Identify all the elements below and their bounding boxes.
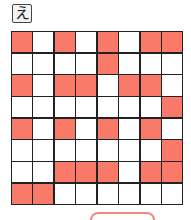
puzzle-label: え	[12, 4, 32, 23]
grid-cell[interactable]	[162, 162, 182, 182]
grid-cell[interactable]	[141, 184, 161, 204]
grid-cell[interactable]	[12, 162, 32, 182]
grid-cell[interactable]	[119, 162, 139, 182]
grid-cell[interactable]	[162, 184, 182, 204]
grid-cell[interactable]	[76, 54, 96, 74]
grid-cell[interactable]	[162, 75, 182, 95]
grid-cell[interactable]	[98, 32, 118, 52]
grid-cell[interactable]	[98, 140, 118, 160]
grid-cell[interactable]	[162, 54, 182, 74]
grid-cell[interactable]	[119, 184, 139, 204]
grid-cell[interactable]	[33, 54, 53, 74]
grid-cell[interactable]	[55, 184, 75, 204]
grid-cell[interactable]	[55, 140, 75, 160]
grid-cell[interactable]	[12, 184, 32, 204]
grid-cell[interactable]	[33, 75, 53, 95]
grid-cell[interactable]	[98, 54, 118, 74]
grid-cell[interactable]	[33, 140, 53, 160]
grid-cell[interactable]	[55, 119, 75, 139]
grid-cell[interactable]	[119, 75, 139, 95]
grid-cell[interactable]	[98, 162, 118, 182]
grid-cell[interactable]	[76, 75, 96, 95]
grid-cell[interactable]	[55, 75, 75, 95]
grid-cell[interactable]	[12, 119, 32, 139]
grid-cell[interactable]	[141, 140, 161, 160]
grid-cell[interactable]	[12, 54, 32, 74]
grid-cell[interactable]	[141, 32, 161, 52]
grid-cell[interactable]	[76, 140, 96, 160]
grid-cell[interactable]	[162, 140, 182, 160]
grid-cell[interactable]	[76, 97, 96, 117]
grid-cell[interactable]	[141, 97, 161, 117]
grid-cell[interactable]	[55, 54, 75, 74]
grid-cell[interactable]	[141, 54, 161, 74]
grid-cell[interactable]	[119, 140, 139, 160]
grid-cell[interactable]	[12, 32, 32, 52]
grid-cell[interactable]	[162, 97, 182, 117]
grid-cell[interactable]	[141, 119, 161, 139]
grid-cell[interactable]	[141, 162, 161, 182]
grid-cell[interactable]	[33, 119, 53, 139]
grid-cell[interactable]	[98, 184, 118, 204]
grid-cell[interactable]	[98, 75, 118, 95]
grid-cell[interactable]	[119, 97, 139, 117]
grid-cell[interactable]	[98, 119, 118, 139]
grid-cell[interactable]	[119, 54, 139, 74]
grid-cell[interactable]	[76, 184, 96, 204]
grid-cell[interactable]	[119, 32, 139, 52]
grid-cell[interactable]	[33, 32, 53, 52]
grid-cell[interactable]	[141, 75, 161, 95]
grid-cell[interactable]	[76, 162, 96, 182]
grid-cell[interactable]	[55, 97, 75, 117]
grid-cell[interactable]	[12, 140, 32, 160]
grid-cell[interactable]	[76, 119, 96, 139]
grid-cell[interactable]	[12, 97, 32, 117]
grid-cell[interactable]	[76, 32, 96, 52]
grid-cell[interactable]	[33, 97, 53, 117]
grid-cell[interactable]	[162, 32, 182, 52]
puzzle-grid	[11, 31, 183, 205]
grid-cell[interactable]	[33, 184, 53, 204]
grid-cell[interactable]	[98, 97, 118, 117]
grid-cell[interactable]	[119, 119, 139, 139]
answer-button[interactable]	[90, 212, 155, 220]
grid-cell[interactable]	[162, 119, 182, 139]
grid-cell[interactable]	[33, 162, 53, 182]
grid-cell[interactable]	[55, 162, 75, 182]
grid-cell[interactable]	[12, 75, 32, 95]
grid-cell[interactable]	[55, 32, 75, 52]
